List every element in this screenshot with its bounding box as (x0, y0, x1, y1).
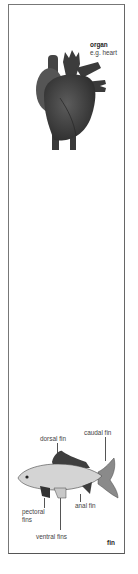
organ-title: organ (90, 41, 108, 48)
fin-title: fin (107, 539, 115, 546)
fish-icon (14, 448, 118, 508)
ventral-leader (60, 498, 61, 530)
anal-fin-label: anal fin (75, 502, 96, 509)
pectoral-leader (44, 498, 45, 508)
caudal-fin-label: caudal fin (84, 429, 111, 436)
dorsal-fin-label: dorsal fin (40, 435, 66, 442)
pectoral-fins-label-line2: fins (22, 516, 32, 523)
anal-leader (80, 494, 81, 502)
pectoral-fins-label-line1: pectoral (22, 508, 45, 515)
ventral-fins-label: ventral fins (36, 533, 67, 540)
heart-icon (30, 50, 110, 150)
